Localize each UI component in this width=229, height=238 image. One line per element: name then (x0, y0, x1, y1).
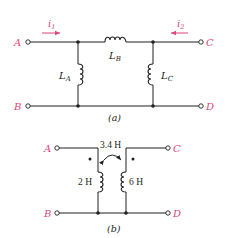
terminal-d-icon (199, 104, 203, 108)
inductor-la-icon (78, 64, 83, 85)
terminal-d-icon (166, 211, 170, 215)
inductor-lc-icon (148, 64, 153, 85)
terminal-d-label: D (172, 208, 181, 219)
terminal-b-label: B (43, 208, 51, 219)
inductor-lb-icon (105, 37, 126, 42)
terminal-a-icon (55, 146, 59, 150)
terminal-c-icon (199, 40, 203, 44)
terminal-d-label: D (205, 101, 214, 112)
circuit-figure: A C B D i1 i2 LB LA LC (a) (0, 0, 229, 238)
terminal-c-label: C (206, 37, 214, 48)
junction-node (124, 211, 128, 215)
terminal-b-label: B (13, 101, 21, 112)
caption-b: (b) (107, 223, 121, 234)
inductor-lc-label: LC (160, 70, 174, 83)
inductor-lb-label: LB (108, 50, 121, 63)
current-i1-label: i1 (48, 18, 55, 31)
terminal-b-icon (26, 104, 30, 108)
junction-node (76, 104, 80, 108)
junction-node (96, 211, 100, 215)
inductor-2h-label: 2 H (78, 177, 92, 187)
junction-node (76, 40, 80, 44)
caption-a: (a) (108, 112, 121, 123)
inductor-6h-label: 6 H (129, 177, 143, 187)
terminal-c-icon (166, 146, 170, 150)
polarity-dot-left-icon (89, 158, 92, 161)
current-i2-label: i2 (177, 18, 184, 31)
polarity-dot-right-icon (132, 158, 135, 161)
inductor-6h-icon (121, 172, 126, 192)
terminal-a-icon (26, 40, 30, 44)
mutual-inductance-label: 3.4 H (100, 140, 121, 150)
inductor-la-label: LA (58, 70, 71, 83)
circuit-b: A C B D 3.4 H 2 H 6 H (b) (43, 140, 181, 234)
mutual-coupling-arrow-icon (104, 155, 121, 160)
junction-node (151, 104, 155, 108)
terminal-b-icon (55, 211, 59, 215)
inductor-2h-icon (98, 172, 103, 192)
terminal-a-label: A (13, 37, 21, 48)
terminal-a-label: A (43, 143, 51, 154)
junction-node (151, 40, 155, 44)
circuit-a: A C B D i1 i2 LB LA LC (a) (13, 18, 214, 123)
terminal-c-label: C (173, 143, 181, 154)
